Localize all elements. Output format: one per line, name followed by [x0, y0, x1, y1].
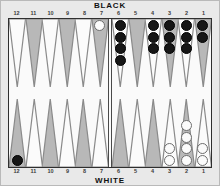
point-column-5[interactable]	[129, 19, 146, 167]
point-number-bottom-4: 4	[144, 167, 161, 176]
white-checker[interactable]	[197, 143, 208, 154]
white-checker[interactable]	[181, 155, 192, 166]
black-checker[interactable]	[164, 32, 175, 43]
right-half[interactable]	[112, 19, 211, 167]
point-number-top-8: 8	[76, 9, 93, 18]
white-checker[interactable]	[164, 143, 175, 154]
point-number-top-7: 7	[93, 9, 110, 18]
point-triangle-bottom-11	[26, 99, 43, 167]
point-triangle-bottom-4	[145, 99, 162, 167]
point-triangle-bottom-10	[42, 99, 59, 167]
point-triangle-top-8	[75, 19, 92, 87]
black-checker[interactable]	[115, 20, 126, 31]
checker-stack-top-7[interactable]	[92, 20, 109, 32]
black-checker[interactable]	[148, 32, 159, 43]
black-checker[interactable]	[12, 155, 23, 166]
black-checker[interactable]	[181, 43, 192, 54]
point-number-top-10: 10	[42, 9, 59, 18]
black-checker[interactable]	[197, 20, 208, 31]
black-checker[interactable]	[181, 20, 192, 31]
checker-stack-bottom-3[interactable]	[162, 143, 179, 166]
checker-stack-bottom-1[interactable]	[195, 143, 212, 166]
checker-stack-top-3[interactable]	[162, 20, 179, 55]
checker-stack-top-6[interactable]	[112, 20, 129, 66]
point-column-7[interactable]	[92, 19, 109, 167]
point-triangle-bottom-8	[75, 99, 92, 167]
point-column-12[interactable]	[9, 19, 26, 167]
point-number-top-4: 4	[144, 9, 161, 18]
point-triangle-bottom-7	[92, 99, 109, 167]
point-column-6[interactable]	[112, 19, 129, 167]
point-triangle-top-5	[129, 19, 146, 87]
black-checker[interactable]	[115, 43, 126, 54]
point-number-bottom-2: 2	[178, 167, 195, 176]
black-checker[interactable]	[181, 32, 192, 43]
black-checker[interactable]	[197, 32, 208, 43]
black-checker[interactable]	[164, 43, 175, 54]
point-number-bottom-1: 1	[195, 167, 212, 176]
point-column-11[interactable]	[26, 19, 43, 167]
white-checker[interactable]	[164, 155, 175, 166]
point-triangle-top-12	[9, 19, 26, 87]
white-checker[interactable]	[94, 20, 105, 31]
point-column-4[interactable]	[145, 19, 162, 167]
black-checker[interactable]	[115, 32, 126, 43]
backgammon-board[interactable]: BLACK 121110987654321 121110987654321 WH…	[0, 0, 220, 186]
left-half[interactable]	[9, 19, 108, 167]
point-triangle-top-10	[42, 19, 59, 87]
point-column-1[interactable]	[195, 19, 212, 167]
point-column-10[interactable]	[42, 19, 59, 167]
point-triangle-bottom-9	[59, 99, 76, 167]
bottom-point-number-row: 121110987654321	[8, 167, 212, 176]
checker-stack-bottom-12[interactable]	[9, 155, 26, 167]
point-number-top-3: 3	[161, 9, 178, 18]
point-number-top-5: 5	[127, 9, 144, 18]
point-number-bottom-11: 11	[25, 167, 42, 176]
point-column-8[interactable]	[75, 19, 92, 167]
checker-stack-bottom-2[interactable]	[178, 120, 195, 166]
point-column-2[interactable]	[178, 19, 195, 167]
checker-stack-top-4[interactable]	[145, 20, 162, 55]
point-triangle-bottom-6	[112, 99, 129, 167]
white-checker[interactable]	[181, 120, 192, 131]
point-number-top-11: 11	[25, 9, 42, 18]
point-number-top-9: 9	[59, 9, 76, 18]
point-number-bottom-10: 10	[42, 167, 59, 176]
point-number-bottom-9: 9	[59, 167, 76, 176]
white-checker[interactable]	[181, 132, 192, 143]
point-number-top-2: 2	[178, 9, 195, 18]
point-triangle-bottom-5	[129, 99, 146, 167]
point-number-bottom-12: 12	[8, 167, 25, 176]
point-number-bottom-3: 3	[161, 167, 178, 176]
white-player-label: WHITE	[0, 176, 220, 185]
black-checker[interactable]	[148, 20, 159, 31]
white-checker[interactable]	[197, 155, 208, 166]
black-checker[interactable]	[148, 43, 159, 54]
black-checker[interactable]	[115, 55, 126, 66]
point-number-top-1: 1	[195, 9, 212, 18]
white-checker[interactable]	[181, 143, 192, 154]
point-number-bottom-6: 6	[110, 167, 127, 176]
top-point-number-row: 121110987654321	[8, 9, 212, 18]
point-triangle-top-11	[26, 19, 43, 87]
playing-field[interactable]	[8, 18, 212, 168]
checker-stack-top-1[interactable]	[195, 20, 212, 43]
point-column-9[interactable]	[59, 19, 76, 167]
black-checker[interactable]	[164, 20, 175, 31]
point-number-bottom-5: 5	[127, 167, 144, 176]
point-number-bottom-8: 8	[76, 167, 93, 176]
point-number-top-12: 12	[8, 9, 25, 18]
checker-stack-top-2[interactable]	[178, 20, 195, 55]
point-number-bottom-7: 7	[93, 167, 110, 176]
point-column-3[interactable]	[162, 19, 179, 167]
point-triangle-top-9	[59, 19, 76, 87]
point-number-top-6: 6	[110, 9, 127, 18]
